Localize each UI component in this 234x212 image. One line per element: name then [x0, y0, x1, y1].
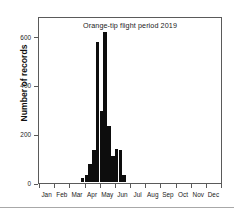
- y-tick-label: 200: [3, 130, 31, 140]
- x-tick-mark: [176, 184, 177, 188]
- y-tick-mark: [34, 37, 38, 38]
- y-tick-label: 0: [3, 179, 31, 189]
- x-tick-mark: [221, 184, 222, 188]
- x-tick-mark: [145, 184, 146, 188]
- x-tick-mark: [160, 184, 161, 188]
- y-tick-mark: [34, 184, 38, 185]
- y-tick-label: 600: [3, 33, 31, 43]
- footer-divider: [0, 207, 234, 208]
- x-tick-mark: [54, 184, 55, 188]
- y-tick: 400: [0, 81, 38, 91]
- bar: [122, 175, 126, 182]
- y-tick: 600: [0, 33, 38, 43]
- x-tick-label: Dec: [201, 191, 225, 198]
- y-tick: 200: [0, 130, 38, 140]
- x-tick-mark: [39, 184, 40, 188]
- x-tick-mark: [85, 184, 86, 188]
- x-tick-mark: [115, 184, 116, 188]
- x-tick-mark: [100, 184, 101, 188]
- x-tick-mark: [206, 184, 207, 188]
- y-tick: 0: [0, 179, 38, 189]
- x-tick-mark: [69, 184, 70, 188]
- y-tick-mark: [34, 86, 38, 87]
- chart-figure: Orange-tip flight period 2019 Number of …: [0, 0, 234, 212]
- bar-series: [39, 18, 221, 183]
- y-tick-label: 400: [3, 81, 31, 91]
- x-tick-mark: [130, 184, 131, 188]
- x-tick-mark: [191, 184, 192, 188]
- y-tick-mark: [34, 135, 38, 136]
